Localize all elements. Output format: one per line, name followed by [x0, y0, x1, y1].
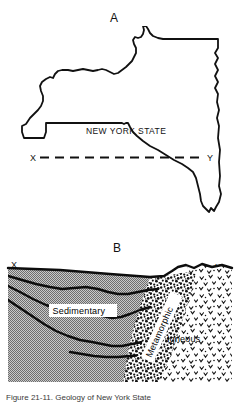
map-section-end-label: Y [207, 153, 213, 163]
cross-section-panel: X Y [0, 256, 243, 388]
new-york-state-outline [22, 26, 221, 212]
igneous-label: Igneous [167, 334, 201, 344]
figure-container: A NEW YORK STATE X Y B [0, 0, 243, 403]
sedimentary-label: Sedimentary [53, 306, 106, 316]
new-york-state-map-panel: NEW YORK STATE X Y [0, 26, 243, 226]
figure-caption: Figure 21-11. Geology of New York State [6, 393, 238, 403]
map-section-start-label: X [30, 153, 36, 163]
new-york-state-label: NEW YORK STATE [86, 126, 166, 136]
new-york-state-map-svg: NEW YORK STATE X Y [0, 26, 243, 226]
cross-section-svg: X Y [0, 256, 243, 388]
sedimentary-label-group: Sedimentary [49, 304, 117, 317]
panel-b-label: B [113, 241, 122, 255]
panel-a-label: A [110, 11, 119, 25]
